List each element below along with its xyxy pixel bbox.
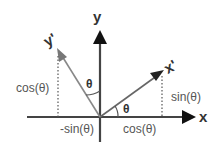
y-axis-label: y (93, 8, 102, 25)
cos-theta-bottom-label: cos(θ) (123, 122, 156, 136)
cos-theta-left-label: cos(θ) (16, 81, 49, 95)
x-prime-axis-label: x' (161, 56, 180, 77)
x-prime-axis (100, 70, 164, 117)
rotation-diagram: y x y' x' θ θ cos(θ) -sin(θ) cos(θ) sin(… (0, 0, 218, 150)
y-axis (93, 30, 107, 142)
x-axis (27, 110, 196, 124)
sin-theta-label: sin(θ) (171, 90, 201, 104)
theta-arc-top (86, 91, 100, 95)
x-axis-arrowhead-icon (182, 110, 196, 124)
x-axis-label: x (199, 108, 208, 125)
theta-arc-bottom (115, 106, 118, 117)
theta-label-bottom: θ (123, 102, 130, 116)
y-axis-arrowhead-icon (93, 30, 107, 44)
neg-sin-theta-label: -sin(θ) (60, 122, 94, 136)
theta-label-top: θ (86, 77, 93, 91)
y-prime-axis (57, 48, 100, 117)
y-prime-axis-label: y' (40, 29, 59, 50)
